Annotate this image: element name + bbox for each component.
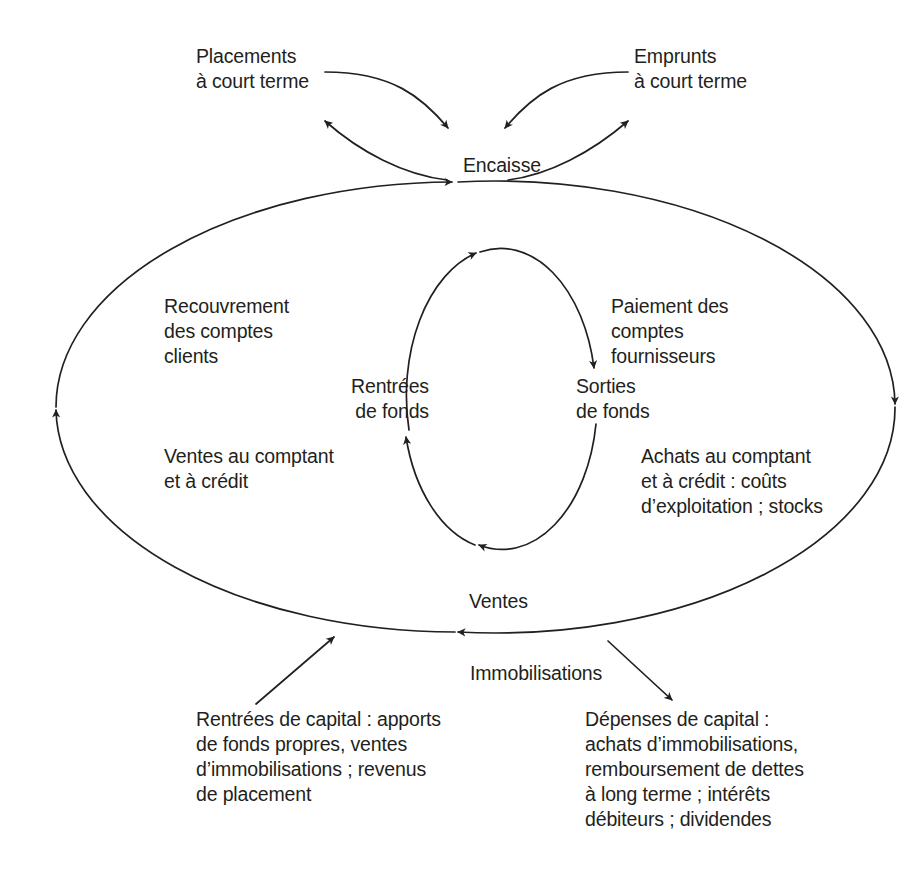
label-immobilisations: Immobilisations — [470, 661, 602, 686]
inner-arc-right-down — [480, 248, 594, 368]
label-encaisse: Encaisse — [463, 153, 541, 178]
label-paiement-comptes-fournisseurs: Paiement des comptes fournisseurs — [611, 294, 728, 369]
arrow-emprunts-to-encaisse — [505, 72, 628, 128]
label-sorties-de-fonds: Sorties de fonds — [576, 374, 650, 424]
label-depenses-de-capital: Dépenses de capital : achats d’immobilis… — [585, 707, 804, 832]
label-ventes: Ventes — [469, 589, 528, 614]
inner-arc-left-up-to-rentrees — [406, 437, 475, 545]
label-placements-court-terme: Placements à court terme — [196, 44, 309, 94]
label-ventes-au-comptant: Ventes au comptant et à crédit — [164, 444, 334, 494]
arrow-cycle-to-depenses-capital — [608, 641, 672, 700]
label-emprunts-court-terme: Emprunts à court terme — [634, 44, 747, 94]
arrow-encaisse-to-placements — [325, 121, 447, 180]
cash-cycle-diagram: Placements à court terme Emprunts à cour… — [0, 0, 908, 873]
arrow-placements-to-encaisse — [325, 72, 448, 128]
arrow-rentrees-capital-to-cycle — [256, 637, 334, 704]
label-achats-au-comptant: Achats au comptant et à crédit : coûts d… — [641, 444, 823, 519]
inner-arc-bottom-left — [479, 424, 596, 549]
label-rentrees-de-capital: Rentrées de capital : apports de fonds p… — [196, 707, 441, 807]
outer-arc-top-right — [458, 181, 895, 404]
label-recouvrement-comptes-clients: Recouvrement des comptes clients — [164, 294, 289, 369]
label-rentrees-de-fonds: Rentrées de fonds — [351, 374, 429, 424]
